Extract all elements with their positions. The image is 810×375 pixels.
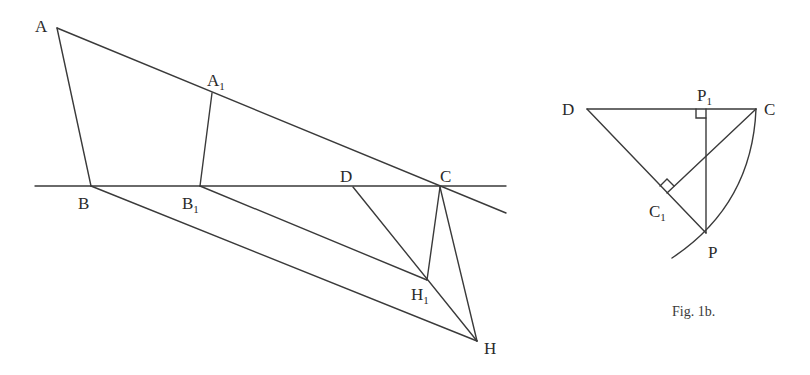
label-c: C bbox=[440, 167, 451, 186]
figure-a: A A1 B B1 D C H1 H bbox=[35, 17, 506, 358]
right-angle-marker-c1 bbox=[660, 179, 674, 186]
segment-a-b bbox=[57, 28, 91, 186]
segment-c-c1 bbox=[667, 109, 756, 193]
label-c1: C1 bbox=[649, 202, 666, 223]
label-c-b: C bbox=[764, 100, 775, 119]
label-h1: H1 bbox=[411, 285, 429, 306]
segment-b-h bbox=[91, 186, 477, 341]
segment-d-p bbox=[587, 109, 706, 233]
arc-c-p bbox=[672, 109, 756, 258]
label-a: A bbox=[35, 17, 48, 36]
right-angle-marker-p1 bbox=[696, 109, 706, 118]
figure-caption: Fig. 1b. bbox=[672, 304, 715, 319]
label-h: H bbox=[484, 339, 496, 358]
line-a-c-extended bbox=[57, 28, 506, 213]
segment-c-h1 bbox=[427, 187, 440, 280]
label-p: P bbox=[708, 243, 717, 262]
label-p1: P1 bbox=[697, 86, 712, 107]
label-b: B bbox=[78, 194, 89, 213]
label-d-b: D bbox=[562, 100, 574, 119]
label-a1: A1 bbox=[207, 71, 225, 92]
geometry-figures: A A1 B B1 D C H1 H D C P1 C1 P Fig. 1b. bbox=[0, 0, 810, 375]
label-b1: B1 bbox=[182, 194, 199, 215]
segment-b1-h1 bbox=[200, 186, 427, 280]
label-d: D bbox=[340, 167, 352, 186]
segment-a1-b1 bbox=[200, 93, 212, 186]
figure-b: D C P1 C1 P Fig. 1b. bbox=[562, 86, 775, 319]
